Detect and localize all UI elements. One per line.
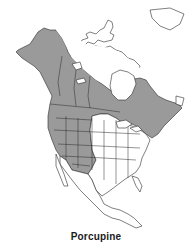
range-map	[0, 0, 192, 230]
map-title: Porcupine	[0, 231, 192, 242]
arctic-islands	[80, 20, 114, 46]
north-america-map	[0, 0, 192, 230]
